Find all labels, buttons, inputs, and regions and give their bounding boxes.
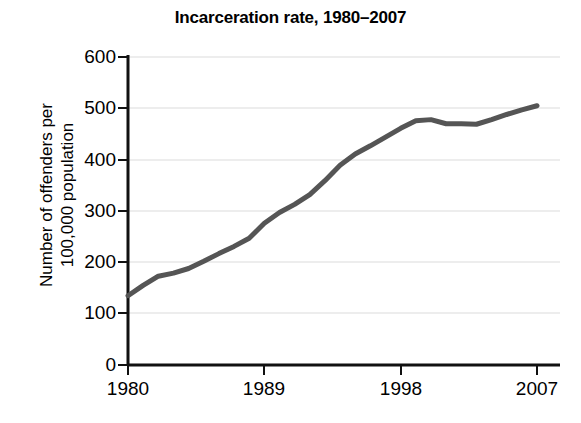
data-line-incarceration-rate <box>128 106 537 296</box>
chart-figure: Incarceration rate, 1980–2007 Number of … <box>0 0 581 423</box>
plot-area <box>0 0 581 423</box>
gridlines <box>128 57 560 313</box>
